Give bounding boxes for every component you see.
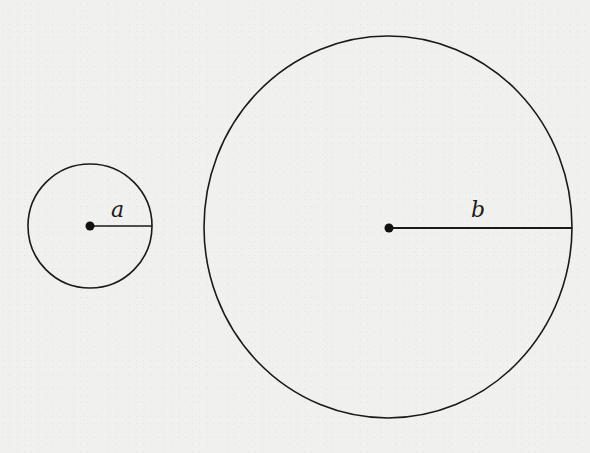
radius-label-a: a — [111, 197, 124, 222]
large-circle-group: b — [204, 36, 572, 418]
large-circle-center-dot — [385, 224, 394, 233]
circles-diagram: a b — [0, 0, 590, 453]
small-circle-center-dot — [86, 222, 95, 231]
diagram-canvas: a b — [0, 0, 590, 453]
small-circle-group: a — [28, 164, 152, 288]
radius-label-b: b — [471, 197, 485, 222]
